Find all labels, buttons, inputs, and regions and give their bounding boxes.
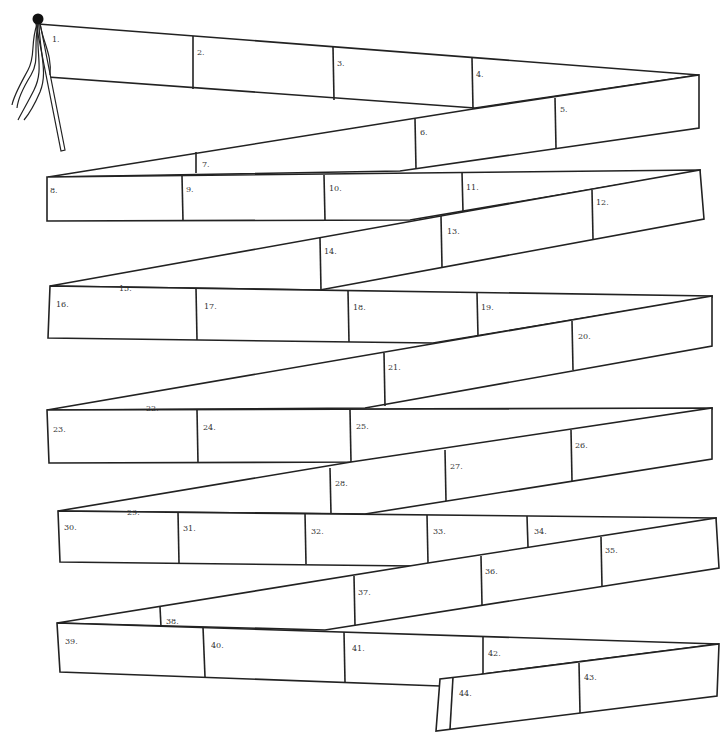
- divider-17-18: [348, 291, 349, 342]
- square-label[interactable]: 23.: [53, 425, 66, 434]
- square-label[interactable]: 21.: [388, 363, 401, 372]
- divider-37-38: [160, 607, 161, 627]
- square-label[interactable]: 1.: [52, 35, 60, 44]
- square-label[interactable]: 16.: [56, 300, 69, 309]
- square-label[interactable]: 37.: [358, 588, 371, 597]
- square-label[interactable]: 34.: [534, 527, 547, 536]
- square-label[interactable]: 13.: [447, 227, 460, 236]
- divider-18-19: [477, 293, 478, 336]
- divider-11-12: [592, 190, 593, 239]
- square-label[interactable]: 24.: [203, 423, 216, 432]
- divider-24-25: [350, 410, 351, 462]
- divider-20-21: [384, 353, 385, 406]
- square-label[interactable]: 4.: [476, 70, 484, 79]
- square-label[interactable]: 29.: [127, 508, 140, 517]
- square-label[interactable]: 28.: [335, 479, 348, 488]
- square-label[interactable]: 42.: [488, 649, 501, 658]
- square-label[interactable]: 20.: [578, 332, 591, 341]
- square-label[interactable]: 31.: [183, 524, 196, 533]
- square-label[interactable]: 7.: [202, 160, 210, 169]
- divider-35-36: [481, 556, 482, 605]
- square-label[interactable]: 35.: [605, 546, 618, 555]
- divider-36-37: [354, 576, 355, 626]
- divider-23-24: [197, 410, 198, 463]
- square-label[interactable]: 12.: [596, 198, 609, 207]
- divider-3-4: [472, 58, 473, 109]
- square-label[interactable]: 9.: [186, 185, 194, 194]
- square-label[interactable]: 40.: [211, 641, 224, 650]
- square-label[interactable]: 11.: [466, 183, 479, 192]
- square-label[interactable]: 33.: [433, 527, 446, 536]
- divider-2-3: [333, 47, 334, 100]
- square-label[interactable]: 15.: [119, 284, 132, 293]
- square-label[interactable]: 14.: [324, 247, 337, 256]
- divider-10-11: [462, 172, 463, 212]
- square-label[interactable]: 22.: [146, 404, 159, 413]
- divider-16-17: [196, 288, 197, 340]
- square-label[interactable]: 38.: [166, 617, 179, 626]
- divider-33-34: [527, 516, 528, 547]
- divider-12-13: [441, 216, 442, 267]
- square-label[interactable]: 25.: [356, 422, 369, 431]
- divider-5-6-top: [555, 98, 556, 148]
- square-label[interactable]: 8.: [50, 186, 58, 195]
- game-board: 1.2.3.4.5.6.7.8.9.10.11.12.13.14.15.16.1…: [0, 0, 726, 749]
- square-label[interactable]: 3.: [337, 59, 345, 68]
- square-label[interactable]: 17.: [204, 302, 217, 311]
- square-label[interactable]: 41.: [352, 644, 365, 653]
- divider-8-9: [182, 176, 183, 221]
- divider-32-33: [427, 515, 428, 563]
- divider-43-44: [579, 663, 580, 713]
- square-label[interactable]: 30.: [64, 523, 77, 532]
- square-label[interactable]: 27.: [450, 462, 463, 471]
- square-label[interactable]: 36.: [485, 567, 498, 576]
- square-label[interactable]: 2.: [197, 48, 205, 57]
- square-label[interactable]: 43.: [584, 673, 597, 682]
- square-label[interactable]: 44.: [459, 689, 472, 698]
- square-label[interactable]: 5.: [560, 105, 568, 114]
- square-label[interactable]: 6.: [420, 128, 428, 137]
- divider-30-31: [178, 512, 179, 563]
- divider-19-20: [572, 321, 573, 370]
- divider-34-35: [601, 537, 602, 587]
- divider-6-7: [415, 119, 416, 169]
- divider-25-26: [571, 430, 572, 481]
- square-label[interactable]: 39.: [65, 637, 78, 646]
- square-label[interactable]: 32.: [311, 527, 324, 536]
- divider-31-32: [305, 513, 306, 564]
- divider-26-27: [445, 450, 446, 501]
- divider-9-10: [324, 175, 325, 220]
- divider-27-28: [330, 468, 331, 514]
- square-label[interactable]: 10.: [329, 184, 342, 193]
- divider-13-14: [320, 238, 321, 290]
- divider-40-41: [344, 632, 345, 682]
- square-label[interactable]: 26.: [575, 441, 588, 450]
- square-label[interactable]: 19.: [481, 303, 494, 312]
- square-label[interactable]: 18.: [353, 303, 366, 312]
